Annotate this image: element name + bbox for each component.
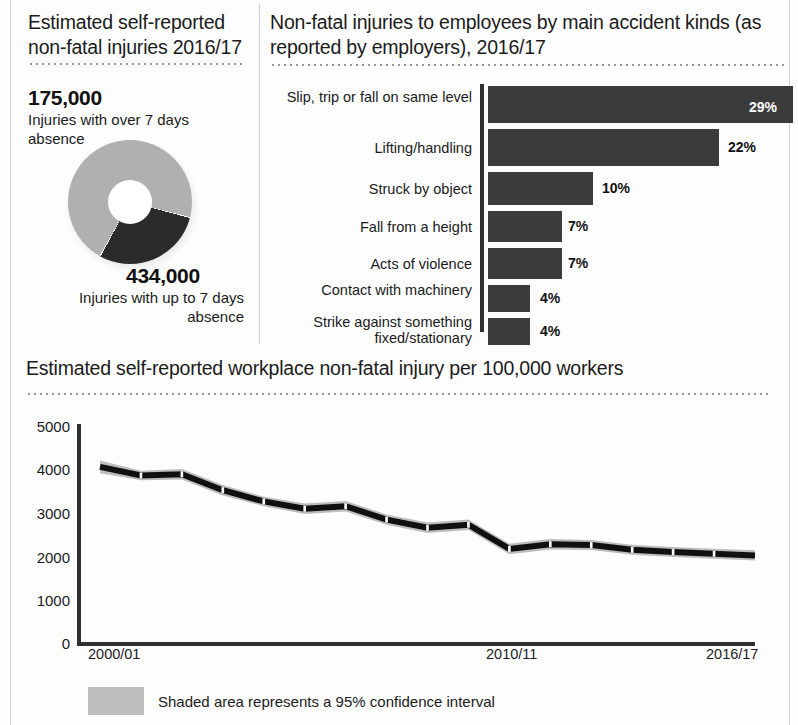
data-point-marker <box>713 551 716 557</box>
bar-rect <box>488 285 530 312</box>
y-tick-label: 0 <box>10 635 70 652</box>
donut-ring <box>68 140 192 264</box>
bar-rect <box>488 318 530 345</box>
legend-label: Shaded area represents a 95% confidence … <box>158 693 495 710</box>
bar-row[interactable]: Contact with machinery 4% <box>260 285 798 312</box>
bar-label: Slip, trip or fall on same level <box>272 89 472 105</box>
right-panel: Non-fatal injuries to employees by main … <box>260 0 798 345</box>
line-chart <box>0 346 798 725</box>
left-panel-dotted-rule <box>28 63 246 65</box>
data-point-marker <box>303 506 306 512</box>
right-panel-dotted-rule <box>270 64 788 66</box>
x-tick-label: 2000/01 <box>88 646 140 662</box>
left-panel-title: Estimated self-reported non-fatal injuri… <box>28 10 243 60</box>
y-tick-label: 3000 <box>10 505 70 522</box>
data-point-marker <box>262 498 265 504</box>
x-axis-line <box>77 642 755 646</box>
donut-chart <box>68 140 196 268</box>
bar-rect <box>488 248 562 279</box>
data-point-marker <box>344 503 347 509</box>
bar-value: 29% <box>749 89 777 126</box>
bar-row[interactable]: Slip, trip or fall on same level 29% <box>260 86 798 123</box>
confidence-band <box>100 460 755 560</box>
data-point-marker <box>590 542 593 548</box>
bar-rect <box>488 86 793 123</box>
bar-label: Struck by object <box>272 181 472 197</box>
y-axis-line <box>77 424 81 646</box>
bar-value: 22% <box>728 129 756 166</box>
data-point-marker <box>222 487 225 493</box>
bar-value: 7% <box>568 211 588 242</box>
up-to-7-days-label: Injuries with up to 7 days absence <box>76 288 244 326</box>
data-point-marker <box>631 547 634 553</box>
data-point-markers <box>140 471 716 556</box>
bar-label: Strike against something fixed/stationar… <box>257 314 472 346</box>
data-point-marker <box>549 541 552 547</box>
data-point-marker <box>508 546 511 552</box>
y-tick-label: 5000 <box>10 418 70 435</box>
y-tick-label: 4000 <box>10 461 70 478</box>
bar-rect <box>488 129 719 166</box>
over-7-days-value: 175,000 <box>28 86 102 110</box>
bottom-panel: Estimated self-reported workplace non-fa… <box>0 346 798 725</box>
bar-rect <box>488 211 562 242</box>
bar-label: Acts of violence <box>272 256 472 272</box>
bar-value: 7% <box>568 248 588 279</box>
up-to-7-days-value: 434,000 <box>126 264 200 288</box>
right-panel-title: Non-fatal injuries to employees by main … <box>270 10 788 60</box>
left-panel: Estimated self-reported non-fatal injuri… <box>0 0 259 345</box>
bar-value: 10% <box>602 172 630 205</box>
x-tick-label: 2010/11 <box>486 646 537 662</box>
bar-row[interactable]: Struck by object 10% <box>260 172 798 205</box>
data-point-marker <box>672 549 675 555</box>
data-point-marker <box>467 522 470 528</box>
bar-row[interactable]: Fall from a height 7% <box>260 211 798 242</box>
data-point-marker <box>385 517 388 523</box>
donut-hole <box>108 180 152 224</box>
infographic-page: Estimated self-reported non-fatal injuri… <box>0 0 798 725</box>
bar-row[interactable]: Strike against something fixed/stationar… <box>260 318 798 345</box>
bar-row[interactable]: Acts of violence 7% <box>260 248 798 279</box>
bar-row[interactable]: Lifting/handling 22% <box>260 129 798 166</box>
x-tick-label: 2016/17 <box>706 646 758 662</box>
bar-label: Contact with machinery <box>272 282 472 298</box>
y-tick-label: 2000 <box>10 549 70 566</box>
data-point-marker <box>181 471 184 477</box>
bar-rect <box>488 172 593 205</box>
bar-value: 4% <box>540 285 560 312</box>
data-point-marker <box>426 525 429 531</box>
data-line <box>100 467 755 556</box>
bar-value: 4% <box>540 318 560 345</box>
data-point-marker <box>140 473 143 479</box>
y-tick-label: 1000 <box>10 592 70 609</box>
bar-label: Lifting/handling <box>272 140 472 156</box>
bar-label: Fall from a height <box>272 219 472 235</box>
legend-swatch <box>88 687 144 715</box>
